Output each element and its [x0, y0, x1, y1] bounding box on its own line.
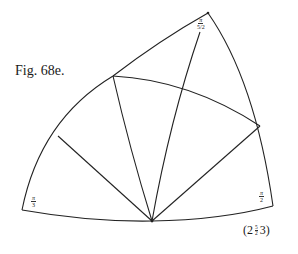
outer-arc-left: [22, 13, 208, 210]
caption-fraction: 5 2: [255, 225, 258, 237]
edge-upper-left-to-right: [113, 76, 260, 126]
angle-top-numerator: π: [198, 17, 203, 24]
edge-upper-left-to-center: [113, 76, 152, 221]
angle-top-denominator: 5/2: [196, 24, 206, 30]
vertex-top: [207, 12, 210, 15]
edge-top-to-center: [152, 32, 200, 221]
angle-label-bottom-left: π 3: [31, 195, 36, 208]
caption-open: (2: [243, 223, 253, 238]
angle-label-bottom-right: π 2: [259, 190, 264, 203]
angle-label-top: π 5/2: [196, 17, 206, 30]
angle-bottom-left-numerator: π: [31, 195, 36, 202]
outer-arc-right: [208, 13, 273, 206]
angle-bottom-right-numerator: π: [259, 190, 264, 197]
schwarz-triangle-caption: (2 5 2 3): [243, 223, 270, 238]
figure-label: Fig. 68e.: [15, 63, 64, 79]
angle-bottom-left-denominator: 3: [31, 202, 36, 208]
edge-right-to-center: [152, 126, 260, 221]
caption-close: 3): [260, 223, 270, 238]
edge-left-mid-to-center: [58, 136, 152, 221]
spherical-triangle-diagram: [0, 0, 298, 254]
outer-arc-bottom: [22, 206, 273, 221]
caption-fraction-denominator: 2: [255, 231, 258, 237]
vertex-center-bottom: [151, 220, 154, 223]
angle-bottom-right-denominator: 2: [259, 197, 264, 203]
